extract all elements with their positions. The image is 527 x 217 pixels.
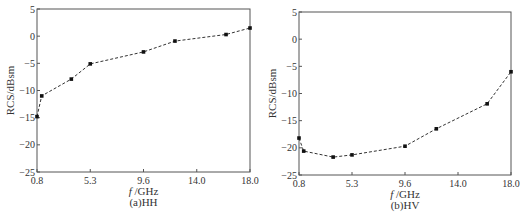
chart-caption: (a)HH [129,196,157,209]
data-line [37,28,250,117]
data-line [299,72,511,157]
y-tick-label: 5 [30,4,35,15]
y-tick-label: −5 [286,61,297,72]
data-point-marker [297,136,301,140]
data-point-marker [142,50,146,54]
y-tick-label: 0 [30,31,35,42]
y-axis-title: RCS/dBsm [4,65,16,115]
y-tick-label: −15 [19,112,35,123]
x-tick-label: 5.3 [84,175,97,186]
x-tick-label: 0.8 [293,178,306,189]
chart-hv: 50−5−10−15−20−250.85.39.614.018.0f /GHz(… [266,7,520,213]
x-tick-label: 0.8 [31,175,44,186]
data-point-marker [403,144,407,148]
y-tick-label: −15 [281,115,297,126]
chart-caption: (b)HV [391,199,420,212]
data-point-marker [485,102,489,106]
y-tick-label: −20 [281,142,297,153]
y-tick-label: −10 [19,85,35,96]
plot-frame [37,9,250,172]
y-tick-label: −5 [24,58,35,69]
data-point-marker [88,62,92,66]
rcs-charts: 50−5−10−15−20−250.85.39.614.018.0f /GHz(… [0,0,527,217]
x-tick-label: 18.0 [502,178,520,189]
plot-frame [299,12,511,175]
data-point-marker [40,94,44,98]
data-point-marker [435,127,439,131]
data-point-marker [350,153,354,157]
data-point-marker [509,70,513,74]
data-point-marker [35,115,39,119]
x-tick-label: 18.0 [241,175,259,186]
data-point-marker [248,26,252,30]
y-axis-title: RCS/dBsm [266,68,278,118]
x-tick-label: 5.3 [346,178,359,189]
y-tick-label: 0 [292,34,297,45]
chart-hh: 50−5−10−15−20−250.85.39.614.018.0f /GHz(… [4,4,259,210]
data-point-marker [70,77,74,81]
data-point-marker [224,33,228,37]
x-tick-label: 14.0 [449,178,467,189]
x-tick-label: 14.0 [188,175,206,186]
data-point-marker [331,155,335,159]
y-tick-label: −10 [281,88,297,99]
data-point-marker [302,149,306,153]
y-tick-label: 5 [292,7,297,18]
y-tick-label: −20 [19,139,35,150]
data-point-marker [173,39,177,43]
